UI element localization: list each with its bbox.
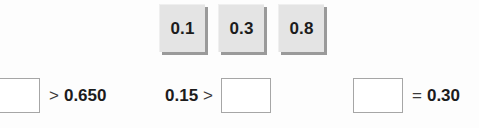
comparison-operator-3: =: [407, 87, 427, 104]
comparison-value-3: 0.30: [427, 87, 460, 104]
comparison-value-1: 0.650: [64, 87, 107, 104]
draggable-tile-0-1[interactable]: 0.1: [159, 4, 205, 52]
comparison-statement-3: = 0.30: [353, 76, 460, 114]
comparison-operator-1: >: [44, 87, 64, 104]
exercise-canvas: 0.1 0.3 0.8 > 0.650 0.15 > = 0.30: [0, 0, 479, 128]
answer-dropbox-3[interactable]: [353, 78, 403, 113]
comparison-statement-1: > 0.650: [0, 76, 106, 114]
tile-label: 0.8: [289, 20, 313, 37]
comparison-statement-2: 0.15 >: [165, 76, 271, 114]
comparison-value-2: 0.15: [165, 87, 198, 104]
draggable-tile-0-3[interactable]: 0.3: [218, 4, 264, 52]
comparison-operator-2: >: [198, 87, 218, 104]
answer-dropbox-1[interactable]: [0, 78, 40, 113]
draggable-tile-0-8[interactable]: 0.8: [278, 4, 324, 52]
answer-dropbox-2[interactable]: [221, 78, 271, 113]
tile-label: 0.3: [229, 20, 253, 37]
tile-label: 0.1: [170, 20, 194, 37]
